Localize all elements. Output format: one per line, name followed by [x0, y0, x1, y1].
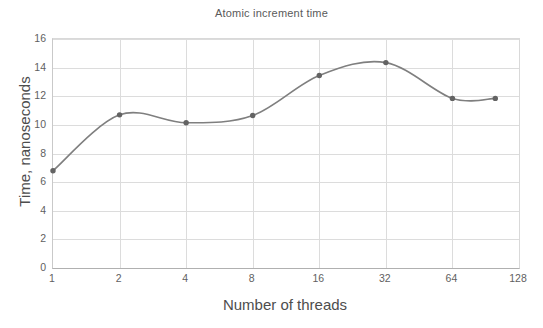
- data-point-marker: [383, 60, 388, 65]
- plot-area: [52, 38, 520, 269]
- x-axis-title: Number of threads: [52, 296, 518, 313]
- data-point-marker: [493, 96, 498, 101]
- x-axis-tick-labels: 1248163264128: [52, 272, 518, 288]
- x-tick-label: 64: [446, 272, 458, 284]
- data-point-marker: [250, 113, 255, 118]
- y-axis-title: Time, nanoseconds: [16, 32, 33, 252]
- x-tick-label: 8: [249, 272, 255, 284]
- chart-container: Atomic increment time 0246810121416 1248…: [0, 0, 543, 328]
- data-point-marker: [183, 120, 188, 125]
- data-point-marker: [117, 112, 122, 117]
- x-tick-label: 1: [49, 272, 55, 284]
- x-tick-label: 2: [116, 272, 122, 284]
- data-series-line: [53, 39, 519, 268]
- y-tick-label: 0: [2, 261, 46, 273]
- x-tick-label: 128: [509, 272, 527, 284]
- data-point-marker: [317, 73, 322, 78]
- data-point-marker: [450, 96, 455, 101]
- x-tick-label: 4: [182, 272, 188, 284]
- chart-title: Atomic increment time: [0, 7, 543, 19]
- x-tick-label: 16: [312, 272, 324, 284]
- x-tick-label: 32: [379, 272, 391, 284]
- data-point-marker: [50, 168, 55, 173]
